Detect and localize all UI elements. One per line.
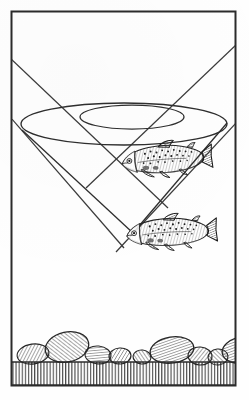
figure-root — [0, 0, 249, 400]
illustration-canvas — [0, 0, 249, 400]
paper-background — [0, 0, 249, 400]
